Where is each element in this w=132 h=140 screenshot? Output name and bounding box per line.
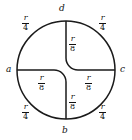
segment-label-top: r 8	[69, 35, 76, 53]
fraction-numerator: r	[100, 14, 106, 22]
geometry-figure: d a c b r 4 r 4 r 4 r 4 r 8 r 8 r 8 r	[0, 0, 132, 140]
point-label-a: a	[6, 65, 11, 74]
arc-label-top-right: r 4	[99, 14, 106, 32]
fraction-denominator: 4	[99, 24, 106, 32]
fraction-denominator: 4	[22, 113, 29, 121]
fraction-numerator: r	[23, 103, 29, 111]
figure-canvas	[0, 0, 132, 140]
point-label-d: d	[59, 4, 65, 13]
fraction-denominator: 4	[99, 113, 106, 121]
fraction-numerator: r	[39, 74, 45, 82]
fraction-denominator: 8	[85, 84, 92, 92]
arc-label-bottom-right: r 4	[99, 103, 106, 121]
point-label-b: b	[62, 126, 68, 135]
point-label-c: c	[120, 65, 125, 74]
fraction-denominator: 8	[69, 103, 76, 111]
arc-label-top-left: r 4	[22, 14, 29, 32]
fraction-numerator: r	[100, 103, 106, 111]
fraction-denominator: 8	[69, 45, 76, 53]
segment-label-right: r 8	[85, 74, 92, 92]
fraction-numerator: r	[70, 35, 76, 43]
segment-label-left: r 8	[38, 74, 45, 92]
fraction-numerator: r	[23, 14, 29, 22]
fraction-numerator: r	[70, 93, 76, 101]
fraction-denominator: 4	[22, 24, 29, 32]
fraction-numerator: r	[86, 74, 92, 82]
fraction-denominator: 8	[38, 84, 45, 92]
arc-label-bottom-left: r 4	[22, 103, 29, 121]
segment-label-bottom: r 8	[69, 93, 76, 111]
